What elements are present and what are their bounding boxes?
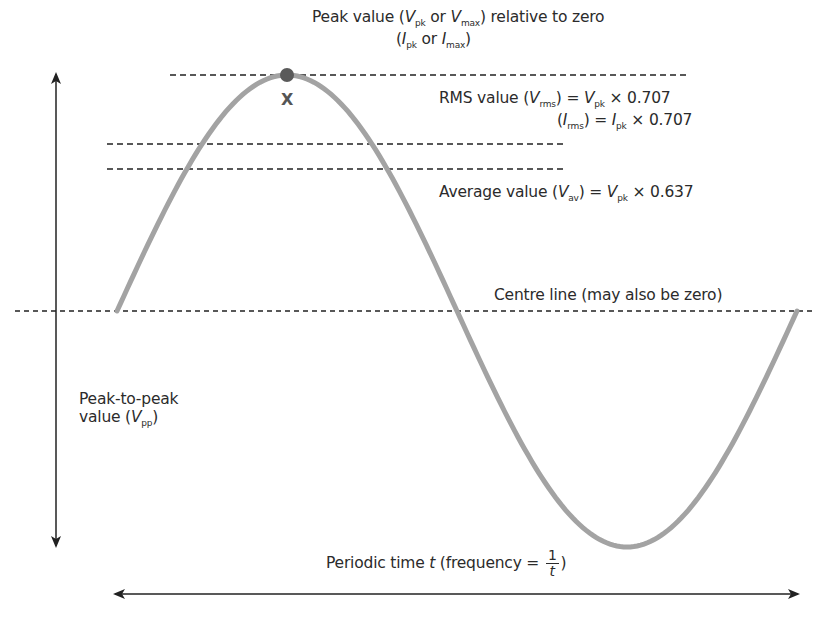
peak-value-label: Peak value (Vpk or Vmax) relative to zer… [312, 8, 604, 26]
diagram-canvas [0, 0, 829, 625]
rms-current-label: (Irms) = Ipk × 0.707 [557, 111, 692, 129]
average-value-label: Average value (Vav) = Vpk × 0.637 [439, 183, 693, 201]
periodic-time-label: Periodic time t (frequency = 1t) [326, 548, 566, 579]
rms-value-label: RMS value (Vrms) = Vpk × 0.707 [439, 89, 671, 107]
peak-marker-dot [280, 68, 294, 82]
peak-current-label: (Ipk or Imax) [396, 30, 471, 48]
peak-to-peak-label-line1: Peak-to-peak [79, 390, 178, 408]
peak-marker-label: X [281, 91, 293, 109]
frequency-fraction: 1t [546, 548, 559, 579]
peak-to-peak-label-line2: value (Vpp) [79, 408, 158, 426]
centre-line-label: Centre line (may also be zero) [494, 286, 722, 304]
